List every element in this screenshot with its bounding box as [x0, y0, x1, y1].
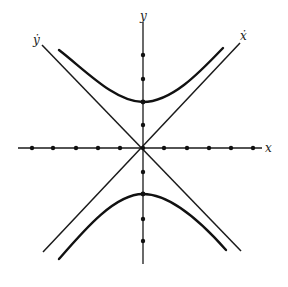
ydot-label: ẏ: [32, 33, 40, 47]
x-axis-label: x: [265, 141, 272, 155]
y-axis-label: y: [139, 9, 147, 23]
upper-hyperbola-branch: [59, 48, 223, 102]
hyperbola-diagram: y x ẏ ẋ: [0, 0, 288, 287]
xdot-label: ẋ: [240, 29, 247, 43]
